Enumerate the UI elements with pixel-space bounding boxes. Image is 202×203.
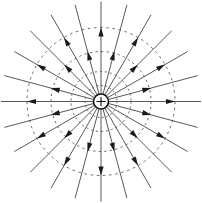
electric-field-diagram (0, 0, 202, 203)
field-diagram-canvas (0, 0, 202, 203)
positive-charge-symbol (94, 94, 109, 109)
